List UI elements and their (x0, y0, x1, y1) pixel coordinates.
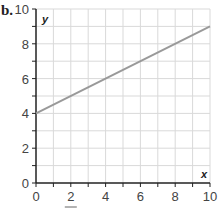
x-tick-label: 4 (102, 189, 109, 204)
y-tick-label: 2 (22, 141, 29, 156)
x-tick-label: 8 (172, 189, 179, 204)
y-tick-label: 10 (15, 2, 29, 17)
x-axis-label: x (200, 168, 208, 180)
x-tick-label: 2 (67, 189, 74, 204)
x-tick-label: 10 (203, 189, 217, 204)
y-tick-label: 6 (22, 72, 29, 87)
y-tick-label: 8 (22, 37, 29, 52)
line-chart: 02468100246810xy (0, 0, 218, 210)
y-tick-label: 0 (22, 176, 29, 191)
y-axis-label: y (41, 13, 49, 25)
y-tick-label: 4 (22, 106, 29, 121)
x-tick-label: 0 (32, 189, 39, 204)
x-tick-label: 6 (137, 189, 144, 204)
